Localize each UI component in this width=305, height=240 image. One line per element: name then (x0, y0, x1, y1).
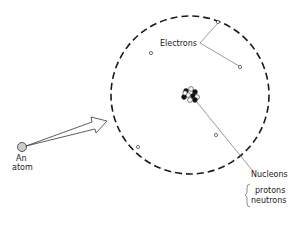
neutrons-label: neutrons (251, 196, 286, 206)
nucleons-label: Nucleons (251, 170, 288, 180)
electron (214, 133, 217, 136)
protons-label: protons (255, 186, 285, 196)
atom-icon (18, 143, 27, 152)
nucleus (182, 87, 200, 103)
electrons-label: Electrons (160, 39, 197, 49)
brace (245, 184, 250, 207)
electron (149, 51, 152, 54)
electrons-leader-lines (200, 23, 239, 66)
nucleons-leader-line (196, 101, 252, 170)
electron (136, 145, 139, 148)
magnify-arrow (26, 117, 107, 146)
atom-label-line2: atom (12, 163, 33, 173)
